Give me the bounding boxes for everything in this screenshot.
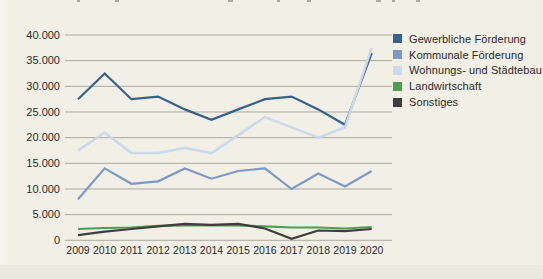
y-axis-label: 40.000 [26, 29, 60, 41]
legend-label: Landwirtschaft [409, 80, 481, 92]
y-axis-label: 25.000 [26, 106, 60, 118]
y-axis-label: 20.000 [26, 131, 60, 143]
x-axis-label: 2014 [200, 244, 224, 256]
legend-label: Kommunale Förderung [409, 49, 523, 61]
series-line-1 [78, 53, 372, 125]
legend-item: Landwirtschaft [393, 78, 542, 94]
x-axis-label: 2012 [146, 244, 170, 256]
scanned-chart-page: 40.00035.00030.00025.00020.00015.00010.0… [0, 0, 543, 279]
legend-label: Sonstiges [409, 96, 458, 108]
y-axis-label: 30.000 [26, 80, 60, 92]
legend-item: Gewerbliche Förderung [393, 31, 542, 47]
y-axis-label: 10.000 [26, 183, 60, 195]
y-axis-label: 15.000 [26, 157, 60, 169]
legend-swatch-icon [393, 66, 402, 75]
x-axis-label: 2020 [360, 244, 384, 256]
legend-swatch-icon [393, 98, 402, 107]
legend-item: Sonstiges [393, 94, 542, 110]
x-axis-label: 2017 [280, 244, 304, 256]
x-axis-label: 2009 [66, 244, 90, 256]
legend-item: Wohnungs- und Städtebau [393, 63, 542, 79]
x-axis-label: 2013 [173, 244, 197, 256]
x-axis-label: 2016 [253, 244, 277, 256]
series-line-4 [78, 225, 372, 229]
legend-swatch-icon [393, 82, 402, 91]
legend-label: Wohnungs- und Städtebau [409, 64, 542, 76]
chart-legend: Gewerbliche FörderungKommunale Förderung… [393, 31, 542, 110]
x-axis-label: 2010 [93, 244, 117, 256]
legend-item: Kommunale Förderung [393, 47, 542, 63]
x-axis-label: 2019 [333, 244, 357, 256]
y-axis-label: 35.000 [26, 54, 60, 66]
x-axis-label: 2011 [120, 244, 143, 256]
y-axis-label: 5.000 [32, 208, 60, 220]
y-axis-label: 0 [54, 234, 60, 246]
x-axis-label: 2018 [307, 244, 331, 256]
legend-label: Gewerbliche Förderung [409, 33, 526, 45]
x-axis-label: 2015 [227, 244, 251, 256]
page-margin [0, 265, 543, 279]
series-line-2 [78, 168, 372, 199]
legend-swatch-icon [393, 50, 402, 59]
legend-swatch-icon [393, 34, 402, 43]
